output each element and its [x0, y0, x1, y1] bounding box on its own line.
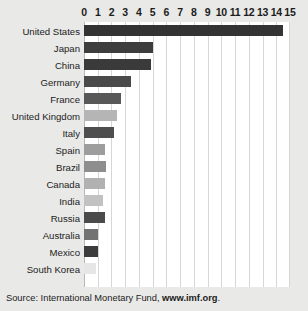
gridline [194, 22, 195, 287]
x-tick-label: 1 [95, 6, 101, 19]
plot-area [84, 22, 290, 287]
gridline [180, 22, 181, 287]
gridline [235, 22, 236, 287]
x-tick-label: 11 [230, 6, 241, 19]
x-tick-label: 6 [164, 6, 170, 19]
bar [84, 110, 117, 121]
source-note-suffix: . [218, 293, 221, 303]
x-tick-label: 3 [122, 6, 128, 19]
x-tick-label: 0 [81, 6, 87, 19]
gridline [276, 22, 277, 287]
x-tick-label: 5 [150, 6, 156, 19]
gridline [153, 22, 154, 287]
category-label: South Korea [0, 264, 80, 275]
category-label: Australia [0, 230, 80, 241]
bar [84, 127, 114, 138]
bar [84, 59, 151, 70]
category-label: Canada [0, 179, 80, 190]
bar [84, 195, 103, 206]
gridline [221, 22, 222, 287]
bar [84, 161, 106, 172]
category-label: Spain [0, 145, 80, 156]
bar [84, 246, 98, 257]
category-label: France [0, 94, 80, 105]
x-tick-label: 2 [109, 6, 115, 19]
gridline [166, 22, 167, 287]
bar-chart: 0123456789101112131415 United StatesJapa… [0, 0, 308, 311]
bar [84, 76, 131, 87]
bar [84, 263, 96, 274]
x-tick-label: 12 [243, 6, 254, 19]
category-label: United Kingdom [0, 111, 80, 122]
x-tick-label: 7 [177, 6, 183, 19]
gridline [208, 22, 209, 287]
category-label: Russia [0, 213, 80, 224]
x-tick-label: 4 [136, 6, 142, 19]
bar [84, 42, 153, 53]
gridline [249, 22, 250, 287]
category-label-column: United StatesJapanChinaGermanyFranceUnit… [0, 22, 80, 287]
bar [84, 229, 98, 240]
category-label: Mexico [0, 247, 80, 258]
bar [84, 25, 283, 36]
category-label: China [0, 60, 80, 71]
x-tick-label: 14 [271, 6, 282, 19]
bar [84, 212, 105, 223]
category-label: India [0, 196, 80, 207]
x-tick-label: 8 [191, 6, 197, 19]
x-axis-tick-labels: 0123456789101112131415 [84, 6, 290, 22]
bar [84, 144, 105, 155]
source-note: Source: International Monetary Fund, www… [6, 292, 220, 304]
source-note-prefix: Source: International Monetary Fund, [6, 293, 162, 303]
category-label: Germany [0, 77, 80, 88]
category-label: Italy [0, 128, 80, 139]
x-tick-label: 10 [216, 6, 227, 19]
x-tick-label: 9 [205, 6, 211, 19]
category-label: United States [0, 26, 80, 37]
bar [84, 93, 121, 104]
bar [84, 178, 105, 189]
gridline [263, 22, 264, 287]
x-tick-label: 13 [257, 6, 268, 19]
x-tick-label: 15 [284, 6, 295, 19]
category-label: Japan [0, 43, 80, 54]
source-note-link: www.imf.org [162, 293, 217, 303]
gridline [289, 22, 290, 287]
category-label: Brazil [0, 162, 80, 173]
